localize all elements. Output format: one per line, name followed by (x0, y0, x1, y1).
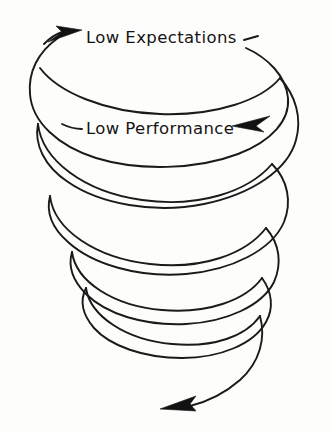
middle-label-leader-dash (62, 124, 82, 129)
spiral-exit-tail (190, 316, 262, 406)
arrowhead-pointing-down-left (160, 396, 196, 411)
middle-label-group: Low Performance (62, 116, 270, 138)
spiral-diagram-canvas: Low Expectations Low Performance (0, 0, 332, 433)
bottom-arrow-group (160, 396, 196, 411)
spiral-coil-1-front (40, 68, 280, 114)
top-label-group: Low Expectations (44, 26, 258, 47)
spiral-coil-3-front (50, 196, 266, 265)
downward-spiral-illustration: Low Expectations Low Performance (0, 0, 332, 433)
spiral-coil-1 (30, 38, 288, 167)
arrowhead-pointing-right (48, 26, 82, 42)
label-low-expectations: Low Expectations (86, 28, 237, 47)
arrowhead-pointing-left (232, 116, 270, 132)
label-low-performance: Low Performance (86, 119, 234, 138)
spiral-coils (30, 38, 299, 406)
spiral-coil-5 (83, 278, 271, 358)
top-label-tail-dash (244, 36, 258, 40)
